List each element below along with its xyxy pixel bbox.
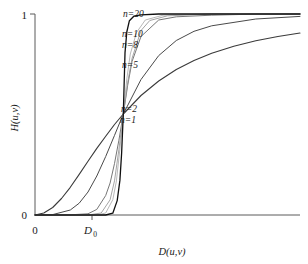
- curve-label-n1: n=1: [120, 115, 136, 125]
- x-tick-label-d0-main: D: [83, 224, 92, 236]
- x-axis-title: D(u,v): [157, 246, 186, 258]
- x-tick-label-origin: 0: [32, 224, 38, 236]
- curve-label-n2: n=2: [121, 104, 137, 114]
- butterworth-lowpass-filter-chart: 1 0 0 D 0 D(u,v) H(u,v) n=20 n=10 n=8 n=…: [0, 0, 308, 264]
- chart-svg: 1 0 0 D 0 D(u,v) H(u,v) n=20 n=10 n=8 n=…: [0, 0, 308, 264]
- y-tick-label-bottom: 0: [22, 209, 28, 221]
- curve-label-n10: n=10: [122, 29, 143, 39]
- y-axis-title: H(u,v): [9, 104, 21, 133]
- curve-label-n20: n=20: [123, 9, 144, 19]
- x-tick-label-d0-sub: 0: [93, 230, 97, 239]
- y-tick-label-top: 1: [22, 9, 28, 21]
- curve-label-n5: n=5: [122, 60, 138, 70]
- curve-label-n8: n=8: [122, 40, 138, 50]
